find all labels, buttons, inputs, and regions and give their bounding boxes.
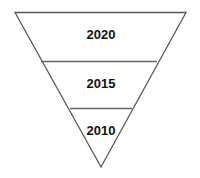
level-label-top: 2020 bbox=[87, 27, 116, 42]
inverted-pyramid-diagram: 2020 2015 2010 bbox=[0, 0, 200, 178]
level-label-bottom: 2010 bbox=[87, 123, 116, 138]
level-label-middle: 2015 bbox=[87, 76, 116, 91]
